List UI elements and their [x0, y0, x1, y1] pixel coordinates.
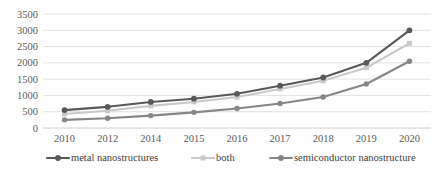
x-axis-tick-label: 2012: [97, 133, 118, 144]
legend-swatch-marker: [278, 155, 284, 161]
legend-swatch-marker: [201, 156, 206, 161]
chart-canvas: 0500100015002000250030003500 20102012201…: [0, 0, 437, 172]
x-axis-tick-label: 2015: [183, 133, 204, 144]
data-point-marker: [277, 101, 282, 106]
data-point-marker: [62, 117, 67, 122]
y-axis-tick-label: 0: [33, 123, 38, 134]
x-axis-tick-label: 2017: [270, 133, 291, 144]
data-point-marker: [320, 75, 326, 81]
chart-legend: metal nanostructuresbothsemiconductor na…: [47, 152, 416, 163]
y-axis-tick-label: 3000: [17, 25, 38, 36]
x-axis-tick-label: 2020: [399, 133, 420, 144]
data-point-marker: [62, 107, 68, 113]
y-axis-tick-label: 1500: [17, 74, 38, 85]
x-axis-tick-label: 2019: [356, 133, 377, 144]
x-axis-tick-label: 2018: [313, 133, 334, 144]
data-point-marker: [407, 41, 412, 46]
x-axis-tick-label: 2016: [227, 133, 248, 144]
line-chart: 0500100015002000250030003500 20102012201…: [0, 0, 437, 172]
data-point-marker: [234, 91, 240, 97]
y-axis-tick-label: 2500: [17, 41, 38, 52]
data-point-marker: [191, 110, 196, 115]
data-point-marker: [277, 83, 283, 89]
y-axis-tick-label: 1000: [17, 90, 38, 101]
y-axis-tick-label: 3500: [17, 9, 38, 20]
legend-item-label[interactable]: metal nanostructures: [71, 152, 158, 163]
data-point-marker: [191, 96, 197, 102]
data-point-marker: [407, 27, 413, 33]
data-point-marker: [363, 60, 369, 66]
series-layer: [62, 27, 413, 122]
data-point-marker: [364, 65, 369, 70]
y-axis-tick-labels: 0500100015002000250030003500: [17, 9, 38, 134]
data-point-marker: [105, 104, 111, 110]
series-line-1: [65, 43, 410, 114]
data-point-marker: [364, 81, 369, 86]
data-point-marker: [105, 116, 110, 121]
data-point-marker: [148, 99, 154, 105]
data-point-marker: [148, 113, 153, 118]
legend-item-label[interactable]: both: [216, 152, 235, 163]
legend-item-label[interactable]: semiconductor nanostructure: [294, 152, 416, 163]
x-axis-tick-label: 2010: [54, 133, 75, 144]
legend-swatch-marker: [55, 155, 61, 161]
y-axis-tick-label: 2000: [17, 57, 38, 68]
x-axis-tick-labels: 201020122014201520162017201820192020: [54, 133, 420, 144]
data-point-marker: [321, 94, 326, 99]
data-point-marker: [407, 59, 412, 64]
x-axis-tick-label: 2014: [140, 133, 162, 144]
y-axis-tick-label: 500: [22, 106, 38, 117]
data-point-marker: [234, 106, 239, 111]
